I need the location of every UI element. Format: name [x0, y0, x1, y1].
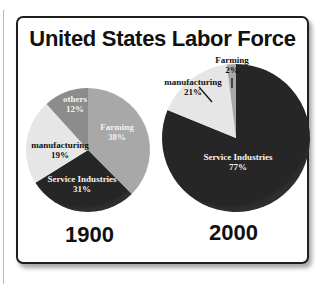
- label-farming-2000: Farming 2%: [212, 55, 252, 75]
- label-service-2000: Service Industries 77%: [196, 152, 280, 172]
- label-manufacturing-2000: manufacturing 21%: [160, 77, 226, 97]
- label-service-1900: Service Industries 31%: [40, 174, 124, 194]
- label-others-1900: others 12%: [55, 94, 95, 114]
- year-label-1900: 1900: [65, 222, 114, 248]
- label-farming-1900: Farming 38%: [94, 122, 140, 142]
- year-label-2000: 2000: [209, 220, 258, 246]
- label-manufacturing-1900: manufacturing 19%: [28, 140, 92, 160]
